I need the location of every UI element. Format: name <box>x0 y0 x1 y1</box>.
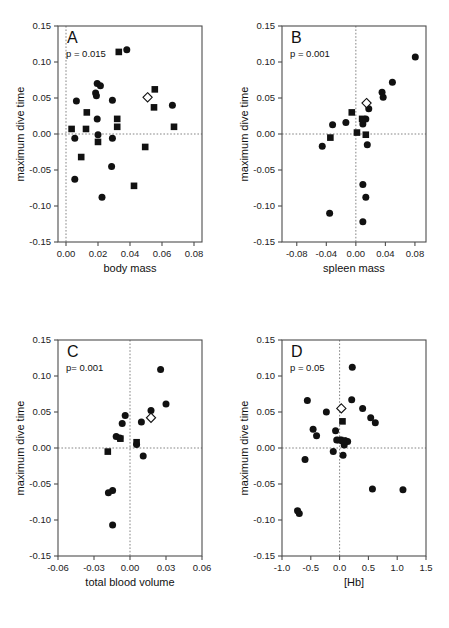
data-point-circle <box>93 92 100 99</box>
x-tick-label: 0.5 <box>362 562 375 573</box>
data-point-square <box>131 183 138 190</box>
x-tick-label: 0.00 <box>57 248 76 259</box>
data-point-square <box>114 124 121 131</box>
data-point-circle <box>330 448 337 455</box>
data-point-circle <box>342 119 349 126</box>
data-point-circle <box>71 135 78 142</box>
y-tick-label: 0.10 <box>33 370 52 381</box>
x-axis-title: body mass <box>103 262 157 274</box>
data-point-circle <box>94 115 101 122</box>
data-point-circle <box>348 396 355 403</box>
y-tick-label: 0.05 <box>33 92 52 103</box>
data-point-square <box>142 144 149 151</box>
data-point-square <box>171 124 178 131</box>
data-point-square <box>348 109 355 116</box>
data-point-diamond <box>337 404 346 413</box>
data-point-circle <box>310 426 317 433</box>
data-point-circle <box>95 131 102 138</box>
y-axis-title: maximum dive time <box>14 401 26 496</box>
y-tick-label: -0.15 <box>29 236 51 247</box>
panel-c: -0.15-0.10-0.050.000.050.100.15-0.06-0.0… <box>0 314 225 628</box>
x-tick-label: 0.03 <box>157 562 176 573</box>
data-point-square <box>83 126 90 133</box>
data-point-circle <box>71 176 78 183</box>
series-filled-circle <box>71 46 176 201</box>
data-point-circle <box>109 522 116 529</box>
data-point-circle <box>340 452 347 459</box>
data-point-circle <box>359 181 366 188</box>
data-point-circle <box>304 397 311 404</box>
series-filled-circle <box>105 366 170 529</box>
figure-panel-grid: -0.15-0.10-0.050.000.050.100.150.000.020… <box>0 0 449 628</box>
y-tick-label: -0.15 <box>29 550 51 561</box>
data-point-circle <box>302 456 309 463</box>
x-tick-label: 0.00 <box>121 562 140 573</box>
data-point-square <box>151 104 158 111</box>
data-point-circle <box>313 432 320 439</box>
data-point-circle <box>380 94 387 101</box>
y-tick-label: 0.10 <box>257 56 276 67</box>
data-point-circle <box>399 486 406 493</box>
data-point-circle <box>123 46 130 53</box>
data-point-circle <box>296 510 303 517</box>
series-filled-circle <box>294 364 406 517</box>
y-tick-label: -0.15 <box>253 550 275 561</box>
x-tick-label: 1.5 <box>419 562 432 573</box>
data-point-circle <box>359 218 366 225</box>
series-filled-square <box>68 49 177 190</box>
series-open-diamond <box>143 93 152 102</box>
y-tick-label: 0.15 <box>33 20 52 31</box>
data-point-square <box>68 126 75 133</box>
data-point-circle <box>108 163 115 170</box>
x-axis-title: spleen mass <box>323 262 385 274</box>
y-tick-label: -0.05 <box>29 164 51 175</box>
data-point-circle <box>364 141 371 148</box>
data-point-square <box>354 129 361 136</box>
scatter-plot-d: -0.15-0.10-0.050.000.050.100.15-1.0-0.50… <box>224 314 449 628</box>
series-filled-circle <box>319 53 419 225</box>
series-open-diamond <box>337 404 346 413</box>
data-point-square <box>359 116 366 123</box>
y-tick-label: 0.05 <box>257 406 276 417</box>
panel-letter: C <box>67 343 79 360</box>
series-filled-square <box>105 435 140 455</box>
data-point-square <box>327 134 334 141</box>
x-tick-label: -0.06 <box>47 562 69 573</box>
panel-letter: D <box>291 343 303 360</box>
y-tick-label: -0.05 <box>29 478 51 489</box>
data-point-square <box>105 448 112 455</box>
data-point-circle <box>349 364 356 371</box>
x-tick-label: -0.03 <box>83 562 105 573</box>
data-point-circle <box>99 194 106 201</box>
p-value-annotation: p = 0.001 <box>290 48 330 59</box>
x-tick-label: -0.04 <box>315 248 337 259</box>
scatter-plot-b: -0.15-0.10-0.050.000.050.100.15-0.08-0.0… <box>224 0 449 314</box>
x-tick-label: -0.5 <box>303 562 319 573</box>
data-point-circle <box>412 53 419 60</box>
data-point-square <box>84 109 91 116</box>
y-tick-label: 0.10 <box>33 56 52 67</box>
p-value-annotation: p = 0.015 <box>66 48 106 59</box>
x-tick-label: -0.08 <box>286 248 308 259</box>
y-axis-title: maximum dive time <box>238 87 250 182</box>
y-tick-label: -0.10 <box>29 514 51 525</box>
p-value-annotation: p = 0.05 <box>290 362 325 373</box>
data-point-circle <box>73 97 80 104</box>
data-point-square <box>339 418 346 425</box>
y-tick-label: 0.15 <box>33 334 52 345</box>
data-point-square <box>114 116 121 123</box>
data-point-circle <box>140 452 147 459</box>
data-point-square <box>117 435 124 442</box>
y-axis-title: maximum dive time <box>238 401 250 496</box>
data-point-circle <box>372 419 379 426</box>
y-tick-label: 0.15 <box>257 334 276 345</box>
data-point-circle <box>362 194 369 201</box>
x-tick-label: 0.00 <box>347 248 366 259</box>
data-point-circle <box>169 102 176 109</box>
data-point-square <box>340 438 347 445</box>
data-point-square <box>116 49 123 56</box>
data-point-circle <box>119 420 126 427</box>
y-tick-label: 0.00 <box>257 442 276 453</box>
scatter-plot-a: -0.15-0.10-0.050.000.050.100.150.000.020… <box>0 0 225 314</box>
panel-b: -0.15-0.10-0.050.000.050.100.15-0.08-0.0… <box>224 0 449 314</box>
